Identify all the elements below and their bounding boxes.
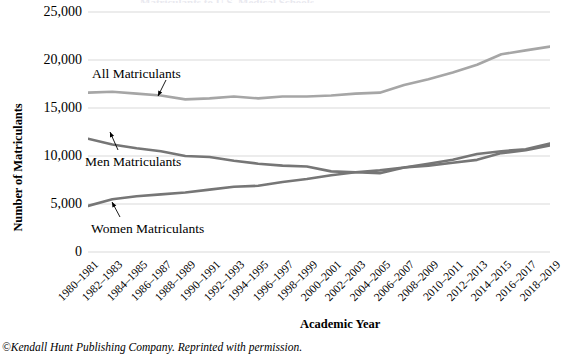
y-tick-label: 5,000 xyxy=(16,197,82,211)
copyright-credit: ©Kendall Hunt Publishing Company. Reprin… xyxy=(2,341,302,353)
series-annotation-all: All Matriculants xyxy=(92,66,181,82)
y-axis-tick-labels: 05,00010,00015,00020,00025,000 xyxy=(16,0,82,362)
y-tick-label: 15,000 xyxy=(16,101,82,115)
series-line xyxy=(88,144,550,206)
series-annotation-men: Men Matriculants xyxy=(85,154,181,170)
leader-arrow-all xyxy=(158,80,166,96)
y-tick-label: 10,000 xyxy=(16,149,82,163)
y-tick-label: 20,000 xyxy=(16,53,82,67)
y-tick-label: 25,000 xyxy=(16,5,82,19)
series-annotation-women: Women Matriculants xyxy=(91,221,204,237)
leader-arrow-men xyxy=(110,132,118,150)
x-axis-title: Academic Year xyxy=(300,317,380,332)
y-tick-label: 0 xyxy=(16,245,82,259)
